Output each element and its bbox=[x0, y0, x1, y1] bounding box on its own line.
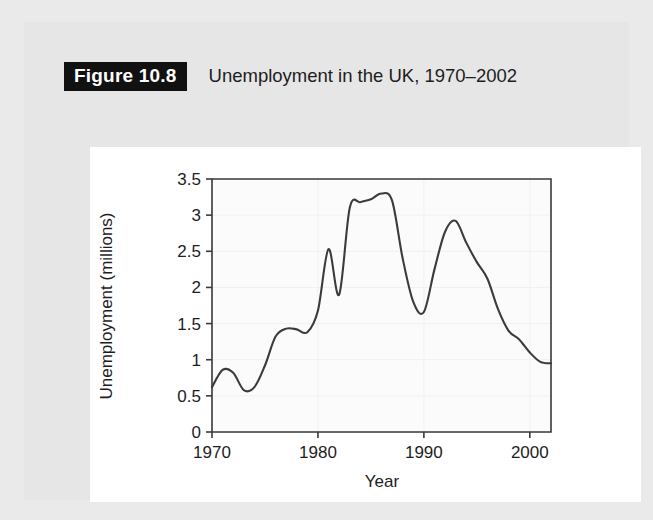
x-tick-label: 1980 bbox=[299, 443, 337, 462]
y-tick-label: 3.5 bbox=[177, 170, 201, 189]
y-tick-label: 2 bbox=[192, 278, 201, 297]
figure-title: Unemployment in the UK, 1970–2002 bbox=[209, 65, 518, 87]
y-tick-label: 0.5 bbox=[177, 387, 201, 406]
figure-card: Figure 10.8 Unemployment in the UK, 1970… bbox=[24, 22, 629, 500]
x-axis-title: Year bbox=[365, 472, 400, 491]
y-axis-ticks bbox=[206, 179, 212, 432]
y-tick-label: 0 bbox=[192, 423, 201, 442]
y-tick-label: 1.5 bbox=[177, 315, 201, 334]
y-axis-title: Unemployment (millions) bbox=[97, 212, 116, 399]
plot-area-background bbox=[212, 179, 551, 432]
x-axis-ticks bbox=[212, 432, 530, 438]
page-background: Figure 10.8 Unemployment in the UK, 1970… bbox=[0, 0, 653, 520]
figure-header: Figure 10.8 Unemployment in the UK, 1970… bbox=[64, 62, 517, 91]
y-tick-label: 1 bbox=[192, 351, 201, 370]
y-tick-label: 2.5 bbox=[177, 242, 201, 261]
unemployment-line-chart: 00.511.522.533.5 1970198019902000 Unempl… bbox=[90, 147, 641, 502]
y-tick-label: 3 bbox=[192, 206, 201, 225]
figure-number-badge: Figure 10.8 bbox=[64, 62, 187, 91]
y-axis-tick-labels: 00.511.522.533.5 bbox=[177, 170, 201, 442]
chart-panel: 00.511.522.533.5 1970198019902000 Unempl… bbox=[90, 147, 641, 502]
x-tick-label: 1970 bbox=[193, 443, 231, 462]
x-axis-tick-labels: 1970198019902000 bbox=[193, 443, 549, 462]
x-tick-label: 2000 bbox=[511, 443, 549, 462]
x-tick-label: 1990 bbox=[405, 443, 443, 462]
